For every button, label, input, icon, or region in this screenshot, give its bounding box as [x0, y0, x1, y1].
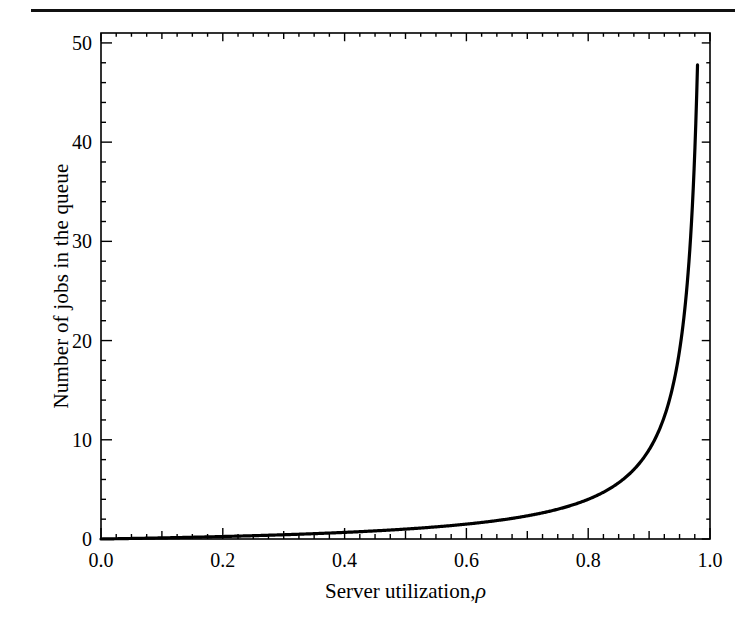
x-tick-label: 0.4	[332, 550, 357, 570]
y-tick-label: 30	[72, 231, 92, 251]
x-tick-label: 0.8	[576, 550, 601, 570]
plot-area-svg	[0, 0, 751, 626]
y-tick-label: 50	[72, 33, 92, 53]
rho-symbol: ρ	[475, 578, 486, 603]
y-tick-label: 10	[72, 430, 92, 450]
y-axis-title: Number of jobs in the queue	[48, 33, 74, 539]
x-axis-title: Server utilization,ρ	[101, 578, 710, 604]
x-tick-label: 0.2	[210, 550, 235, 570]
x-tick-label: 0.6	[454, 550, 479, 570]
figure-chart-m-m-1-queue: 0.00.20.40.60.81.0 01020304050 Number of…	[0, 0, 751, 626]
y-tick-label: 20	[72, 331, 92, 351]
x-tick-label: 1.0	[698, 550, 723, 570]
y-tick-label: 0	[82, 529, 92, 549]
plot-frame	[101, 33, 710, 539]
x-axis-title-text: Server utilization,	[325, 579, 475, 603]
y-tick-label: 40	[72, 132, 92, 152]
x-tick-label: 0.0	[89, 550, 114, 570]
